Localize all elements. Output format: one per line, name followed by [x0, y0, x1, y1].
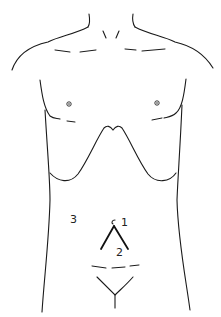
- clavicle-right-1: [125, 49, 136, 50]
- chest-right-side: [164, 79, 186, 118]
- torso-right: [177, 105, 190, 310]
- lower-abdomen-dash-1: [92, 266, 106, 268]
- pectoral-left-dash: [67, 121, 75, 122]
- label-1: 1: [121, 216, 128, 229]
- chest-left-side: [40, 80, 60, 119]
- throat-left: [103, 31, 106, 38]
- clavicle-left-2: [80, 50, 96, 52]
- shoulder-left: [12, 27, 88, 70]
- torso-diagram: 3 1 2: [0, 0, 221, 317]
- throat-right: [116, 31, 119, 38]
- costal-margin: [50, 126, 176, 180]
- clavicle-left-1: [55, 50, 70, 52]
- neck-left: [88, 14, 90, 27]
- nipple-right-center: [156, 102, 158, 104]
- groin-v: [97, 277, 133, 295]
- label-2: 2: [116, 246, 123, 259]
- shoulder-right: [135, 27, 213, 68]
- incision-left: [101, 226, 114, 249]
- neck-right: [133, 14, 135, 27]
- torso-left: [42, 110, 50, 312]
- clavicle-right-2: [142, 49, 165, 51]
- lower-abdomen-dash-2: [112, 267, 125, 268]
- nipple-left-center: [68, 103, 70, 105]
- label-3: 3: [70, 213, 77, 226]
- lower-abdomen-dash-3: [130, 265, 139, 266]
- navel-marker: [112, 220, 115, 224]
- pectoral-right-dash: [152, 118, 162, 120]
